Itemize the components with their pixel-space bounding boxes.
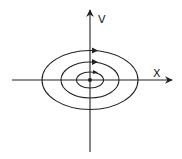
- phase-portrait-diagram: V X: [0, 0, 182, 159]
- y-axis-label: V: [98, 13, 106, 26]
- fixed-point: [88, 78, 92, 82]
- orbit-outer-arrow-icon: [92, 48, 98, 54]
- orbit-middle-arrow-icon: [92, 59, 98, 65]
- x-axis-label: X: [153, 67, 161, 80]
